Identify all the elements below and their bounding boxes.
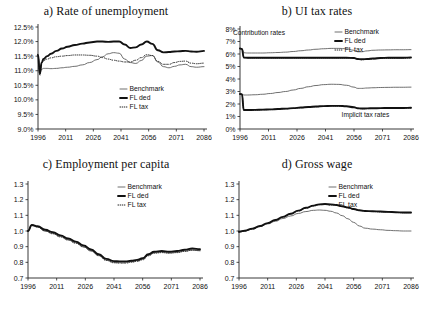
x-tick-label: 2026 [78,283,94,290]
y-tick-label: 0% [225,126,235,133]
x-tick-label: 2041 [317,283,333,290]
figure-panel-grid: a) Rate of unemployment 9.0%9.5%10.0%10.… [0,0,423,310]
legend-label-fl-tax: FL tax [345,46,364,53]
y-tick-label: 0.7 [14,275,24,282]
y-tick-label: 1.3 [225,181,235,188]
legend-label-fl-tax: FL tax [339,201,358,208]
panel-c-plot: 0.70.80.91.01.11.21.31996201120262041205… [0,172,212,302]
legend-label-fl-tax: FL tax [128,201,147,208]
series-line-benchmark [240,48,411,53]
y-tick-label: 2% [225,101,235,108]
y-tick-label: 1.2 [225,196,235,203]
panel-b-ui-tax-rates: b) UI tax rates 0%1%2%3%4%5%6%7%8%199620… [211,4,423,156]
y-tick-label: 7% [225,38,235,45]
x-tick-label: 1996 [20,283,36,290]
series-line-fl-ded [38,42,204,74]
legend-label-benchmark: Benchmark [130,85,165,92]
y-tick-label: 10.5% [14,82,34,89]
y-tick-label: 1.3 [14,181,24,188]
x-tick-label: 2041 [106,283,122,290]
x-tick-label: 2056 [141,134,157,141]
y-tick-label: 1.2 [14,196,24,203]
y-tick-label: 11.0% [14,67,33,74]
series-line-benchmark [28,226,200,263]
axis-lines [28,181,203,278]
x-tick-label: 2011 [58,134,73,141]
x-tick-label: 2071 [164,283,180,290]
x-tick-label: 2011 [260,283,275,290]
x-tick-label: 2071 [169,134,185,141]
legend: BenchmarkFL dedFL tax [120,85,164,110]
legend-label-fl-tax: FL tax [130,103,149,110]
x-tick-label: 2086 [403,283,419,290]
legend-label-benchmark: Benchmark [339,183,374,190]
panel-d-svg: 0.70.80.91.01.11.21.31996201120262041205… [211,172,423,302]
x-tick-label: 2086 [196,134,212,141]
series-line-benchmark [240,84,411,95]
legend-label-benchmark: Benchmark [345,28,380,35]
legend: BenchmarkFL dedFL tax [329,183,373,208]
axis-lines [38,24,207,129]
y-tick-label: 1.0 [225,228,235,235]
legend-label-fl-ded: FL ded [128,192,149,199]
y-tick-label: 5% [225,63,235,70]
x-tick-label: 2056 [346,134,362,141]
panel-a-rate-of-unemployment: a) Rate of unemployment 9.0%9.5%10.0%10.… [0,4,212,156]
panel-a-title: a) Rate of unemployment [0,4,212,19]
x-tick-label: 1996 [232,134,248,141]
x-tick-label: 2026 [289,134,305,141]
x-tick-label: 2026 [86,134,102,141]
panel-d-gross-wage: d) Gross wage 0.70.80.91.01.11.21.319962… [211,157,423,309]
y-tick-label: 9.5% [18,111,34,118]
x-tick-label: 2026 [289,283,305,290]
y-tick-label: 1.1 [14,212,24,219]
x-tick-label: 2041 [113,134,129,141]
x-tick-label: 2041 [318,134,334,141]
legend: BenchmarkFL dedFL tax [335,28,379,53]
x-tick-label: 1996 [231,283,247,290]
y-tick-label: 0.8 [14,259,24,266]
x-tick-label: 2011 [261,134,276,141]
series-line-fl-ded [239,204,411,232]
series-line-benchmark [38,53,204,73]
legend-label-fl-ded: FL ded [130,94,151,101]
y-tick-label: 11.5% [14,53,33,60]
y-tick-label: 12.0% [14,38,34,45]
x-tick-label: 2056 [346,283,362,290]
x-tick-label: 2086 [403,134,419,141]
x-tick-label: 2056 [135,283,151,290]
panel-c-employment-per-capita: c) Employment per capita 0.70.80.91.01.1… [0,157,212,309]
series-line-fl-ded [240,94,411,110]
panel-a-plot: 9.0%9.5%10.0%10.5%11.0%11.5%12.0%12.5%19… [0,19,212,149]
legend: BenchmarkFL dedFL tax [118,183,162,208]
legend-label-fl-ded: FL ded [339,192,360,199]
y-tick-label: 10.0% [14,96,34,103]
x-tick-label: 2071 [375,283,391,290]
y-tick-label: 1.1 [225,212,235,219]
y-tick-label: 6% [225,51,235,58]
series-line-fl-ded [28,225,200,261]
plot-annotation: Contribution rates [233,29,286,36]
panel-b-plot: 0%1%2%3%4%5%6%7%8%1996201120262041205620… [211,19,423,149]
panel-c-title: c) Employment per capita [0,157,212,172]
legend-label-benchmark: Benchmark [128,183,163,190]
x-tick-label: 1996 [30,134,46,141]
x-tick-label: 2071 [375,134,391,141]
series-line-fl-tax [239,204,411,232]
panel-d-plot: 0.70.80.91.01.11.21.31996201120262041205… [211,172,423,302]
axis-lines [239,181,414,278]
y-tick-label: 1.0 [14,228,24,235]
y-tick-label: 12.5% [14,24,34,31]
y-tick-label: 0.8 [225,259,235,266]
y-tick-label: 0.9 [14,243,24,250]
y-tick-label: 0.9 [225,243,235,250]
legend-label-fl-ded: FL ded [345,37,366,44]
y-tick-label: 3% [225,88,235,95]
panel-c-svg: 0.70.80.91.01.11.21.31996201120262041205… [0,172,212,302]
plot-annotation: Implicit tax rates [342,111,390,119]
y-tick-label: 9.0% [18,126,34,133]
y-tick-label: 0.7 [225,275,235,282]
panel-a-svg: 9.0%9.5%10.0%10.5%11.0%11.5%12.0%12.5%19… [0,19,212,149]
series-line-benchmark [239,210,411,232]
y-tick-label: 1% [225,113,235,120]
